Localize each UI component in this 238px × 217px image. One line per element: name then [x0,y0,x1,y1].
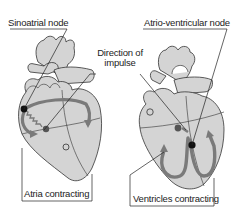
direction-of-impulse-line2: impulse [95,58,145,68]
heart-conduction-diagram: Sinoatrial node Atrio-ventricular node D… [0,0,238,217]
direction-of-impulse-label: Direction of impulse [95,48,145,68]
right-heart-pulmonary [150,71,166,84]
right-heart-vessel-right [174,77,213,94]
atria-contracting-label: Atria contracting [24,188,89,199]
left-heart-body [19,76,102,180]
diagram-graphics [0,0,238,217]
left-av-node-dot [43,126,49,132]
ventricles-contracting-label: Ventricles contracting [133,193,219,204]
right-grey-node-dot [175,125,182,132]
atrio-ventricular-node-label: Atrio-ventricular node [144,17,230,28]
right-heart [139,46,224,189]
left-heart [19,36,102,181]
sinoatrial-node-label: Sinoatrial node [8,17,68,28]
